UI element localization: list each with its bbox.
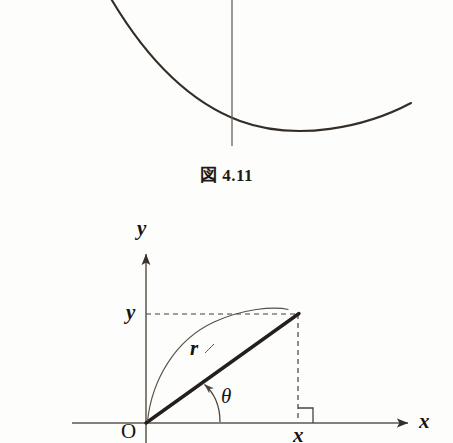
origin-label: O [121,419,136,443]
page-canvas: 図 4.11 y y x x O r θ [0,0,453,443]
top-figure-group [110,0,411,146]
x-axis-label: x [419,409,430,434]
y-coordinate-label: y [126,300,135,325]
right-angle-marker [298,408,313,423]
figure-caption: 図 4.11 [0,161,453,186]
polar-diagram-group [72,254,408,443]
radius-annotation-leader [205,344,214,353]
catenary-curve [110,0,411,131]
radius-label: r [190,336,198,361]
x-coordinate-label: x [293,423,304,443]
y-axis-label: y [137,216,146,241]
theta-label: θ [221,384,231,409]
theta-angle-arc [205,385,221,423]
figure-vector-layer [0,0,453,443]
